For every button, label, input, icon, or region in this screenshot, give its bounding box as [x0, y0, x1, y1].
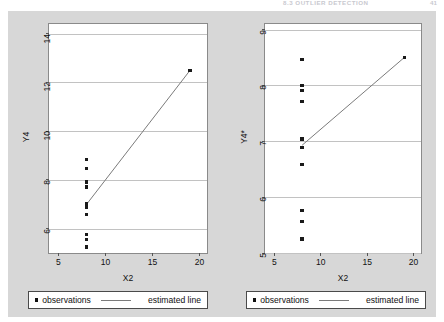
- y-axis-label-left: Y4: [21, 117, 31, 157]
- data-point: [85, 238, 88, 241]
- x-tick-label: 15: [362, 257, 371, 267]
- x-tick-mark: [367, 253, 368, 256]
- legend-line-label: estimated line: [148, 295, 201, 305]
- data-point: [85, 158, 88, 161]
- data-point: [300, 209, 303, 212]
- x-tick-label: 5: [56, 257, 61, 267]
- data-point: [85, 167, 88, 170]
- gridline: [265, 253, 421, 254]
- legend-line-icon: [319, 300, 349, 301]
- data-point: [300, 146, 303, 149]
- x-tick-mark: [58, 253, 59, 256]
- running-head-title: 8.3 OUTLIER DETECTION: [283, 0, 368, 6]
- data-point: [85, 185, 88, 188]
- x-axis-label-right: X2: [264, 273, 422, 283]
- x-tick-mark: [199, 253, 200, 256]
- chart-panel-left: 681012145101520 Y4 X2 observations estim…: [8, 11, 222, 317]
- x-axis-label-left: X2: [48, 273, 208, 283]
- legend-left: observations estimated line: [28, 291, 208, 309]
- legend-marker-label: observations: [260, 295, 309, 305]
- plot-area-left: 681012145101520: [48, 23, 208, 254]
- page-number: 41: [430, 0, 437, 6]
- data-point: [300, 237, 303, 240]
- plot-area-right: 567895101520: [264, 23, 422, 254]
- chart-panel-right: 567895101520 Y4* X2 observations estimat…: [222, 11, 436, 317]
- running-head: 8.3 OUTLIER DETECTION 41: [0, 0, 444, 11]
- x-tick-label: 5: [272, 257, 277, 267]
- x-tick-mark: [105, 253, 106, 256]
- data-point: [300, 137, 303, 140]
- data-point: [85, 233, 88, 236]
- legend-marker-icon: [253, 298, 256, 301]
- x-tick-label: 10: [101, 257, 110, 267]
- x-tick-label: 20: [409, 257, 418, 267]
- data-point: [300, 84, 303, 87]
- x-tick-label: 10: [316, 257, 325, 267]
- x-tick-mark: [152, 253, 153, 256]
- data-point: [403, 56, 406, 59]
- data-point: [85, 213, 88, 216]
- data-point: [85, 180, 88, 183]
- legend-line-label: estimated line: [366, 295, 419, 305]
- x-tick-label: 20: [195, 257, 204, 267]
- legend-line-icon: [101, 300, 131, 301]
- legend-marker-label: observations: [42, 295, 91, 305]
- x-tick-mark: [413, 253, 414, 256]
- data-point: [300, 89, 303, 92]
- regression-line: [265, 24, 421, 253]
- y-axis-label-right: Y4*: [239, 117, 249, 157]
- legend-right: observations estimated line: [246, 291, 426, 309]
- data-point: [85, 205, 88, 208]
- data-point: [300, 100, 303, 103]
- x-tick-label: 15: [148, 257, 157, 267]
- data-point: [85, 245, 88, 248]
- x-tick-mark: [320, 253, 321, 256]
- y-tick-label: 5: [258, 253, 268, 258]
- data-point: [188, 69, 191, 72]
- x-tick-mark: [274, 253, 275, 256]
- data-point: [300, 58, 303, 61]
- regression-line: [49, 24, 207, 253]
- data-point: [300, 163, 303, 166]
- figure-container: 681012145101520 Y4 X2 observations estim…: [8, 11, 436, 317]
- legend-marker-icon: [35, 298, 38, 301]
- data-point: [300, 220, 303, 223]
